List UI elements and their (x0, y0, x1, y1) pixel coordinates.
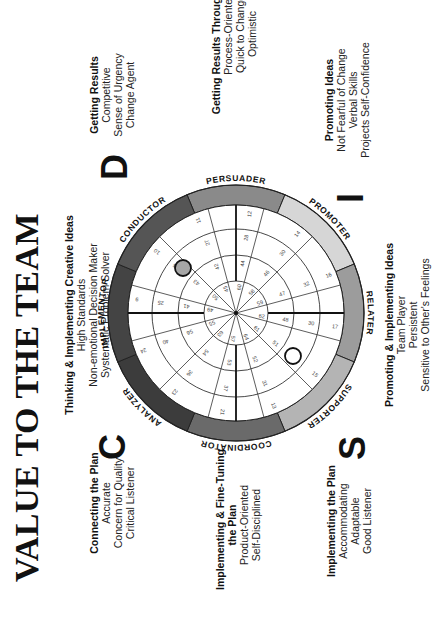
sector-number: 53 (226, 359, 233, 366)
disc-wheel: 1214161715132123249101128303230343137364… (0, 0, 434, 634)
sector-number: 30 (308, 320, 315, 327)
sector-number: 25 (157, 300, 164, 307)
wheel-center (234, 311, 238, 315)
sector-number: 37 (223, 385, 230, 392)
segment-label-relater: RELATER (364, 290, 376, 336)
adapted-style-dot (175, 260, 191, 276)
sector-number: 44 (239, 260, 246, 267)
sector-number: 21 (219, 409, 226, 416)
sector-number: 17 (332, 323, 339, 330)
sector-number: 28 (243, 234, 250, 241)
sector-number: 49 (207, 307, 214, 314)
sector-number: 41 (183, 303, 190, 310)
sector-number: 60 (236, 284, 243, 291)
segment-label-persuader: PERSUADER (205, 173, 267, 186)
sector-number: 57 (230, 335, 237, 342)
natural-style-dot (285, 348, 301, 364)
sector-number: 12 (246, 210, 253, 217)
sector-number: 48 (282, 316, 289, 323)
sector-number: 62 (258, 313, 265, 320)
